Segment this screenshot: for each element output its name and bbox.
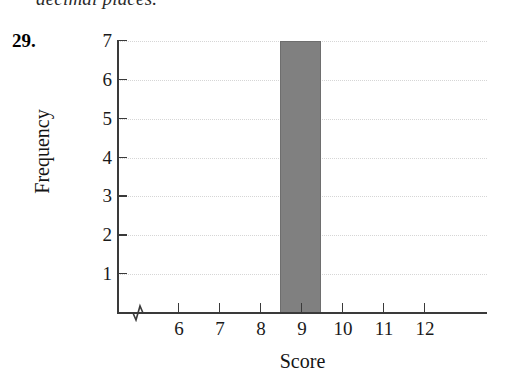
y-tick-label-1: 1 (90, 263, 112, 285)
y-axis-title: Frequency (31, 77, 54, 227)
x-axis-title: Score (118, 350, 487, 373)
x-tick-6 (178, 303, 179, 313)
y-tick-label-3: 3 (90, 185, 112, 207)
histogram-bar-score-9 (280, 41, 321, 313)
x-tick-12 (424, 303, 425, 313)
x-tick-label-10: 10 (323, 318, 363, 340)
y-tick-label-5: 5 (90, 108, 112, 130)
y-tick-1 (118, 273, 127, 274)
y-tick-5 (118, 118, 127, 119)
y-tick-label-7: 7 (90, 30, 112, 52)
y-tick-label-4: 4 (90, 147, 112, 169)
x-tick-label-12: 12 (405, 318, 445, 340)
x-tick-label-9: 9 (282, 318, 322, 340)
x-axis-break-icon (126, 302, 152, 322)
y-tick-7 (118, 40, 127, 41)
x-tick-label-7: 7 (200, 318, 240, 340)
y-tick-3 (118, 195, 127, 196)
x-tick-7 (219, 303, 220, 313)
x-tick-9 (301, 303, 302, 313)
x-tick-8 (260, 303, 261, 313)
x-tick-label-6: 6 (159, 318, 199, 340)
histogram-figure: 7 6 5 4 3 2 1 6 7 8 9 10 11 12 Score Fre… (0, 0, 505, 387)
x-tick-label-8: 8 (241, 318, 281, 340)
x-tick-11 (383, 303, 384, 313)
y-tick-6 (118, 79, 127, 80)
y-tick-label-2: 2 (90, 224, 112, 246)
x-tick-label-11: 11 (364, 318, 404, 340)
x-axis-line (118, 312, 487, 314)
y-tick-label-6: 6 (90, 69, 112, 91)
y-tick-2 (118, 234, 127, 235)
y-tick-4 (118, 157, 127, 158)
x-tick-10 (342, 303, 343, 313)
